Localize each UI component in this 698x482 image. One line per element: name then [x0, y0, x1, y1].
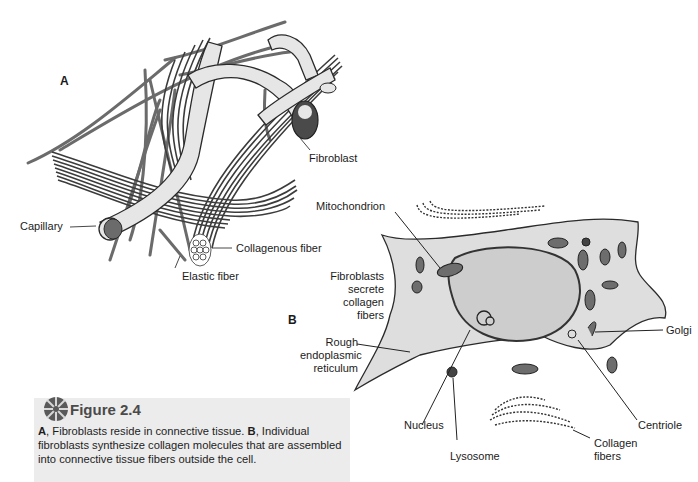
label-rough-er: Rough endoplasmic reticulum [300, 336, 358, 375]
figure-number: Figure 2.4 [70, 401, 141, 418]
label-golgi: Golgi [666, 324, 692, 337]
label-line: Fibroblasts [326, 270, 384, 283]
label-line: collagen [326, 296, 384, 309]
caption-b-label: B [248, 425, 256, 437]
rosette-icon [40, 394, 74, 424]
label-line: reticulum [300, 362, 358, 375]
label-collagen-fibers: Collagen fibers [594, 437, 637, 463]
label-line: Rough [300, 336, 358, 349]
label-collagenous-fiber: Collagenous fiber [236, 242, 322, 255]
label-elastic-fiber: Elastic fiber [182, 270, 239, 283]
panel-a-label: A [60, 74, 69, 88]
label-capillary: Capillary [20, 220, 63, 233]
label-line: endoplasmic [300, 349, 358, 362]
label-centriole: Centriole [638, 419, 682, 432]
caption-a-label: A [38, 425, 46, 437]
label-mitochondrion: Mitochondrion [316, 200, 385, 213]
figure-caption-text: A, Fibroblasts reside in connective tiss… [38, 424, 348, 466]
label-fibroblast: Fibroblast [309, 152, 357, 165]
label-line: secrete [326, 283, 384, 296]
label-fibroblasts-secrete: Fibroblasts secrete collagen fibers [326, 270, 384, 322]
panel-b-label: B [288, 313, 297, 327]
label-nucleus: Nucleus [404, 419, 444, 432]
label-lysosome: Lysosome [450, 450, 500, 463]
caption-a-text: , Fibroblasts reside in connective tissu… [46, 425, 247, 437]
label-line: Collagen [594, 437, 637, 450]
label-line: fibers [326, 309, 384, 322]
label-line: fibers [594, 450, 637, 463]
